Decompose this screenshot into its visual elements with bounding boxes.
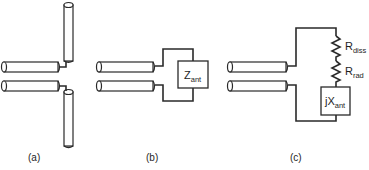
z-ant-box: Zant [178,61,208,88]
feedline-upper-tube [228,62,288,72]
antenna-equivalent-circuit-diagram: (a) Zant (b) [0,0,369,170]
resistor-r-rad-icon [332,61,340,87]
r-rad-label: Rrad [345,65,364,80]
feed-wire-upper [60,62,66,67]
dipole-upper-element [64,3,73,63]
resistor-r-diss-icon [332,36,340,61]
r-diss-label: Rdiss [345,40,367,55]
feedline-upper-tube [2,62,60,72]
caption-c: (c) [290,152,302,163]
wire-top [288,28,336,66]
panel-b: Zant (b) [97,49,209,163]
feedline-lower-tube [97,81,155,91]
feedline-lower-tube [2,81,60,91]
panel-c: Rdiss Rrad jXant (c) [228,28,367,163]
panel-a: (a) [2,3,74,164]
feedline-upper-tube [97,62,155,72]
dipole-lower-element [64,90,73,148]
jx-ant-box: jXant [321,87,350,115]
feedline-lower-tube [228,81,288,91]
caption-a: (a) [28,152,40,163]
caption-b: (b) [146,152,158,163]
